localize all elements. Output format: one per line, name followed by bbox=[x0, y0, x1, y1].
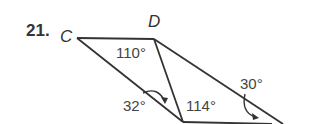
vertex-label-d: D bbox=[148, 13, 160, 30]
angle-label-30: 30° bbox=[240, 76, 263, 91]
segment-cd bbox=[77, 38, 154, 39]
vertex-label-c: C bbox=[60, 28, 72, 45]
arrowhead-32-icon bbox=[161, 97, 168, 104]
angle-label-110: 110° bbox=[116, 45, 146, 60]
angle-label-32: 32° bbox=[123, 98, 146, 113]
geometry-figure: 21. C D 110° 32° 114° 30° bbox=[0, 0, 309, 124]
arrowhead-30-icon bbox=[252, 113, 259, 120]
problem-number: 21. bbox=[26, 22, 50, 39]
segment-d-right bbox=[154, 39, 283, 124]
angle-label-114: 114° bbox=[186, 98, 216, 113]
segment-bottom bbox=[183, 122, 272, 124]
